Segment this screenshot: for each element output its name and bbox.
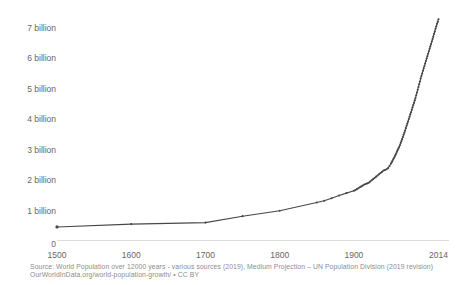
data-point-marker — [414, 99, 416, 101]
data-point-marker — [420, 75, 422, 77]
x-axis-tick-label: 1900 — [344, 250, 363, 260]
data-point-marker — [242, 215, 244, 217]
data-point-marker — [55, 225, 58, 228]
x-axis-tick-label: 1700 — [196, 250, 215, 260]
data-point-marker — [421, 73, 423, 75]
data-point-marker — [323, 200, 325, 202]
source-link[interactable]: OurWorldInData.org/world-population-grow… — [30, 271, 460, 279]
data-point-marker — [415, 94, 417, 96]
x-axis-tick-label: 1600 — [122, 250, 141, 260]
source-text: Source: World Population over 12000 year… — [30, 263, 460, 271]
data-point-marker — [426, 55, 428, 57]
data-point-marker — [400, 140, 402, 142]
population-line-chart-canvas: 01 billion2 billion3 billion4 billion5 b… — [0, 0, 472, 285]
y-axis-tick-label: 1 billion — [27, 206, 56, 216]
y-axis-tick-label: 2 billion — [27, 175, 56, 185]
data-point-marker — [418, 83, 420, 85]
data-point-marker — [338, 195, 340, 197]
data-point-marker — [427, 53, 429, 55]
data-point-marker — [411, 109, 413, 111]
y-axis-ticks: 01 billion2 billion3 billion4 billion5 b… — [27, 23, 56, 249]
data-point-marker — [428, 50, 430, 52]
data-point-marker — [404, 130, 406, 132]
x-axis-tick-label: 1500 — [48, 250, 67, 260]
x-axis-tick-label: 2014 — [429, 250, 448, 260]
data-point-marker — [409, 116, 411, 118]
x-axis-ticks: 150016001700180019002014 — [48, 250, 449, 260]
data-point-marker — [432, 36, 434, 38]
data-point-marker — [406, 123, 408, 125]
data-point-marker — [388, 165, 390, 167]
data-point-marker — [130, 223, 132, 225]
data-point-marker — [411, 106, 413, 108]
data-point-marker — [429, 48, 431, 50]
x-axis-tick-label: 1800 — [270, 250, 289, 260]
source-attribution: Source: World Population over 12000 year… — [30, 263, 460, 279]
world-population-chart: 01 billion2 billion3 billion4 billion5 b… — [0, 0, 472, 285]
data-point-marker — [425, 60, 427, 62]
data-point-marker — [413, 102, 415, 104]
population-series-line — [57, 19, 439, 227]
data-point-marker — [423, 67, 425, 69]
data-point-marker — [316, 201, 318, 203]
data-point-marker — [434, 28, 436, 30]
data-point-marker — [417, 89, 419, 91]
data-point-marker — [407, 120, 409, 122]
data-point-marker — [398, 146, 400, 148]
data-point-marker — [431, 40, 433, 42]
data-point-marker — [435, 25, 437, 27]
data-point-marker — [400, 142, 402, 144]
data-point-marker — [432, 38, 434, 40]
data-point-marker — [345, 192, 347, 194]
data-point-marker — [426, 58, 428, 60]
data-point-marker — [403, 134, 405, 136]
data-point-markers — [55, 18, 439, 228]
data-point-marker — [416, 91, 418, 93]
y-axis-tick-label: 3 billion — [27, 145, 56, 155]
data-point-marker — [420, 77, 422, 79]
data-point-marker — [436, 23, 438, 25]
data-point-marker — [423, 65, 425, 67]
data-point-marker — [414, 97, 416, 99]
data-point-marker — [422, 70, 424, 72]
data-point-marker — [401, 138, 403, 140]
data-point-marker — [430, 43, 432, 45]
data-point-marker — [204, 222, 206, 224]
y-axis-tick-label: 0 — [51, 239, 56, 249]
data-point-marker — [433, 33, 435, 35]
data-point-marker — [437, 18, 439, 20]
data-point-marker — [402, 136, 404, 138]
data-point-marker — [409, 113, 411, 115]
data-point-marker — [408, 118, 410, 120]
data-point-marker — [279, 210, 281, 212]
y-axis-tick-label: 5 billion — [27, 84, 56, 94]
data-point-marker — [417, 86, 419, 88]
data-point-marker — [434, 30, 436, 32]
data-point-marker — [437, 21, 439, 23]
y-axis-tick-label: 4 billion — [27, 114, 56, 124]
data-point-marker — [399, 144, 401, 146]
data-point-marker — [387, 167, 389, 169]
data-point-marker — [412, 104, 414, 106]
data-point-marker — [403, 132, 405, 134]
y-axis-tick-label: 7 billion — [27, 23, 56, 33]
data-point-marker — [331, 197, 333, 199]
data-point-marker — [395, 152, 397, 154]
data-point-marker — [406, 125, 408, 127]
data-point-marker — [424, 62, 426, 64]
data-point-marker — [410, 111, 412, 113]
data-point-marker — [405, 127, 407, 129]
data-point-marker — [419, 80, 421, 82]
y-axis-tick-label: 6 billion — [27, 53, 56, 63]
data-point-marker — [429, 45, 431, 47]
